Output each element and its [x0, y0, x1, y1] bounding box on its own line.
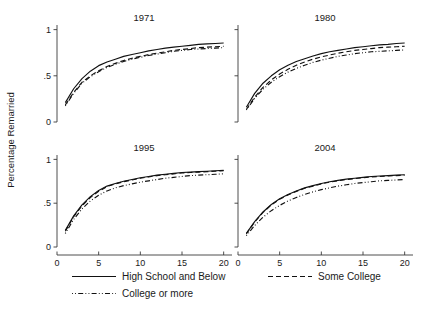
panel-1980: 1980 — [235, 12, 405, 122]
panel-title-1980: 1980 — [314, 12, 335, 23]
x-tick-label-1995-4: 20 — [219, 258, 229, 268]
x-tick-label-2004-2: 10 — [316, 258, 326, 268]
curve-1971-solid — [65, 43, 223, 103]
x-tick-label-2004-3: 15 — [358, 258, 368, 268]
x-tick-label-1995-0: 0 — [54, 258, 59, 268]
x-tick-label-2004-1: 5 — [277, 258, 282, 268]
x-tick-label-2004-4: 20 — [400, 258, 410, 268]
legend: High School and BelowSome CollegeCollege… — [72, 271, 381, 299]
x-tick-label-2004-0: 0 — [235, 258, 240, 268]
y-tick-label-1995-1: .5 — [43, 198, 51, 208]
y-tick-label-1971-1: .5 — [43, 71, 51, 81]
x-tick-label-1995-1: 5 — [96, 258, 101, 268]
y-axis-title: Percentage Remarried — [5, 92, 16, 188]
legend-some-college-label: Some College — [318, 271, 381, 282]
curve-1971-dashed — [65, 46, 223, 105]
x-tick-label-1995-3: 15 — [177, 258, 187, 268]
panel-title-1971: 1971 — [133, 12, 154, 23]
curve-1995-dashed — [65, 171, 223, 231]
y-tick-label-1995-2: 1 — [46, 155, 51, 165]
legend-high-school-and-below-label: High School and Below — [122, 271, 226, 282]
panel-1995: 19950.5105101520 — [43, 142, 232, 268]
chart-canvas: 19710.51198019950.5105101520200405101520… — [0, 0, 428, 311]
panel-2004: 200405101520 — [235, 142, 414, 268]
curve-1980-solid — [246, 43, 404, 107]
curve-2004-dashed — [246, 175, 404, 234]
panel-1971: 19710.51 — [43, 12, 223, 127]
legend-college-or-more-label: College or more — [122, 288, 194, 299]
panel-title-1995: 1995 — [133, 142, 154, 153]
curve-1995-dotdash — [65, 174, 223, 234]
curve-1995-solid — [65, 170, 223, 230]
y-tick-label-1995-0: 0 — [46, 242, 51, 252]
remarriage-figure: 19710.51198019950.5105101520200405101520… — [0, 0, 428, 311]
y-tick-label-1971-0: 0 — [46, 117, 51, 127]
curve-1980-dotdash — [246, 50, 404, 110]
x-tick-label-1995-2: 10 — [135, 258, 145, 268]
curve-2004-dotdash — [246, 180, 404, 236]
curve-1980-dashed — [246, 46, 404, 109]
curve-1971-dotdash — [65, 48, 223, 106]
panel-title-2004: 2004 — [314, 142, 335, 153]
y-tick-label-1971-2: 1 — [46, 25, 51, 35]
